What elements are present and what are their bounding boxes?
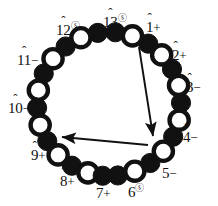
arrow-diagonal	[139, 47, 153, 136]
label-number-4: 4ˆ	[183, 130, 190, 145]
label-number-11: 11ˆ	[17, 53, 31, 68]
bead-label-11: 11ˆ−	[17, 53, 38, 68]
label-sign-10: −	[23, 101, 30, 116]
label-sign-8: +	[67, 174, 74, 189]
label-superscript-12: ⓢ	[71, 21, 80, 31]
arrow-horizontal	[62, 137, 148, 145]
label-sign-3: −	[193, 80, 200, 95]
circumflex-icon: ˆ	[108, 6, 112, 19]
bead-label-6: 6ˆⓢ	[128, 184, 144, 200]
label-sign-1: +	[153, 20, 160, 35]
label-number-5: 5ˆ	[162, 166, 169, 181]
label-number-9: 9ˆ	[31, 148, 38, 163]
label-superscript-6: ⓢ	[135, 183, 144, 193]
label-sign-4: −	[190, 130, 197, 145]
circumflex-icon: ˆ	[185, 121, 189, 134]
label-number-12: 12ˆ	[56, 23, 71, 38]
circumflex-icon: ˆ	[98, 177, 102, 190]
bead-label-4: 4ˆ−	[183, 130, 197, 145]
circumflex-icon: ˆ	[164, 157, 168, 170]
label-number-10: 10ˆ	[8, 101, 23, 116]
circumflex-icon: ˆ	[33, 139, 37, 152]
bead-ring-figure: 1ˆ+2ˆ+3ˆ−4ˆ−5ˆ−6ˆⓢ7ˆ+8ˆ+9ˆ+10ˆ−11ˆ−12ˆⓢ1…	[0, 0, 218, 206]
circumflex-icon: ˆ	[148, 11, 152, 24]
bead-label-13: 13ˆⓢ	[103, 14, 126, 30]
bead-label-2: 2ˆ+	[172, 48, 186, 63]
label-number-13: 13ˆ	[103, 15, 118, 30]
bead-open	[29, 81, 48, 100]
circumflex-icon: ˆ	[13, 92, 17, 105]
label-sign-9: +	[38, 148, 45, 163]
bead-label-8: 8ˆ+	[60, 174, 74, 189]
label-number-8: 8ˆ	[60, 174, 67, 189]
bead-label-1: 1ˆ+	[146, 20, 160, 35]
label-sign-5: −	[169, 166, 176, 181]
bead-label-5: 5ˆ−	[162, 166, 176, 181]
circumflex-icon: ˆ	[188, 71, 192, 84]
bead-label-10: 10ˆ−	[8, 101, 30, 116]
bead-label-3: 3ˆ−	[186, 80, 200, 95]
circumflex-icon: ˆ	[61, 14, 65, 27]
bead-label-7: 7ˆ+	[96, 186, 110, 201]
label-number-3: 3ˆ	[186, 80, 193, 95]
circumflex-icon: ˆ	[22, 44, 26, 57]
arrows-layer	[62, 47, 153, 145]
bead-label-12: 12ˆⓢ	[56, 22, 79, 38]
label-sign-11: −	[31, 53, 38, 68]
bead-label-9: 9ˆ+	[31, 148, 45, 163]
bead-filled	[93, 166, 112, 185]
circumflex-icon: ˆ	[62, 165, 66, 178]
label-number-1: 1ˆ	[146, 20, 153, 35]
label-number-2: 2ˆ	[172, 48, 179, 63]
ring-canvas	[0, 0, 218, 206]
label-number-6: 6ˆ	[128, 185, 135, 200]
circumflex-icon: ˆ	[174, 39, 178, 52]
circumflex-icon: ˆ	[130, 176, 134, 189]
label-number-7: 7ˆ	[96, 186, 103, 201]
label-sign-2: +	[179, 48, 186, 63]
label-superscript-13: ⓢ	[118, 13, 127, 23]
label-sign-7: +	[103, 186, 110, 201]
